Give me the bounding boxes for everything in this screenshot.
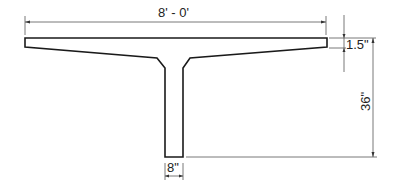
t-beam-section-outline [25, 38, 327, 157]
t-beam-drawing [0, 0, 394, 190]
web-width-label: 8" [167, 161, 179, 174]
overall-depth-label: 36" [359, 92, 372, 111]
flange-thickness-label: 1.5" [346, 38, 369, 51]
overall-width-label: 8' - 0' [158, 6, 189, 19]
